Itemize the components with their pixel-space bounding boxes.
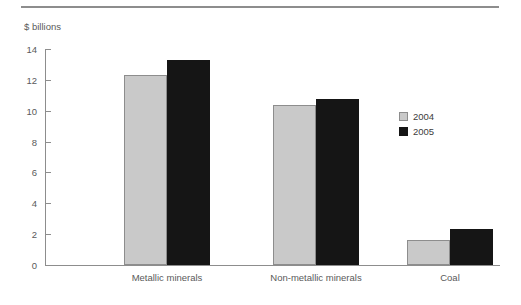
y-axis-unit-label: $ billions — [24, 21, 61, 32]
y-axis-line — [45, 49, 46, 265]
legend-label-2004: 2004 — [413, 111, 434, 122]
bar-2004-metallic-minerals — [124, 75, 167, 265]
y-axis-tick-label: 14 — [26, 44, 37, 55]
y-axis-tick-mark — [46, 142, 51, 143]
top-divider-rule — [21, 6, 499, 8]
y-axis-tick-label: 2 — [32, 229, 37, 240]
y-axis-tick-mark — [46, 49, 51, 50]
y-axis-tick-label: 12 — [26, 74, 37, 85]
legend-label-2005: 2005 — [413, 126, 434, 137]
x-axis-label-coal: Coal — [440, 272, 460, 283]
legend-item-2004: 2004 — [399, 109, 434, 124]
y-axis-tick-mark — [46, 80, 51, 81]
x-axis-label-metallic-minerals: Metallic minerals — [132, 272, 203, 283]
legend-swatch-2004 — [399, 112, 408, 121]
bar-2004-non-metallic-minerals — [273, 105, 316, 265]
legend-swatch-2005 — [399, 127, 408, 136]
bar-2005-non-metallic-minerals — [316, 99, 359, 265]
bar-2005-coal — [450, 229, 493, 265]
legend-item-2005: 2005 — [399, 124, 434, 139]
y-axis-tick-label: 8 — [32, 136, 37, 147]
x-axis-label-non-metallic-minerals: Non-metallic minerals — [270, 272, 361, 283]
y-axis-tick-label: 6 — [32, 167, 37, 178]
chart-legend: 20042005 — [399, 109, 434, 139]
y-axis-tick-mark — [46, 172, 51, 173]
x-axis-line — [45, 265, 500, 266]
y-axis-tick-mark — [46, 111, 51, 112]
y-axis-tick-mark — [46, 265, 51, 266]
y-axis-tick-mark — [46, 203, 51, 204]
y-axis-tick-label: 4 — [32, 198, 37, 209]
bar-2005-metallic-minerals — [167, 60, 210, 265]
y-axis-tick-label: 10 — [26, 105, 37, 116]
y-axis-tick-mark — [46, 234, 51, 235]
y-axis-tick-label: 0 — [32, 260, 37, 271]
bar-2004-coal — [407, 240, 450, 265]
chart-plot-area: 02468101214 Metallic mineralsNon-metalli… — [45, 49, 500, 265]
